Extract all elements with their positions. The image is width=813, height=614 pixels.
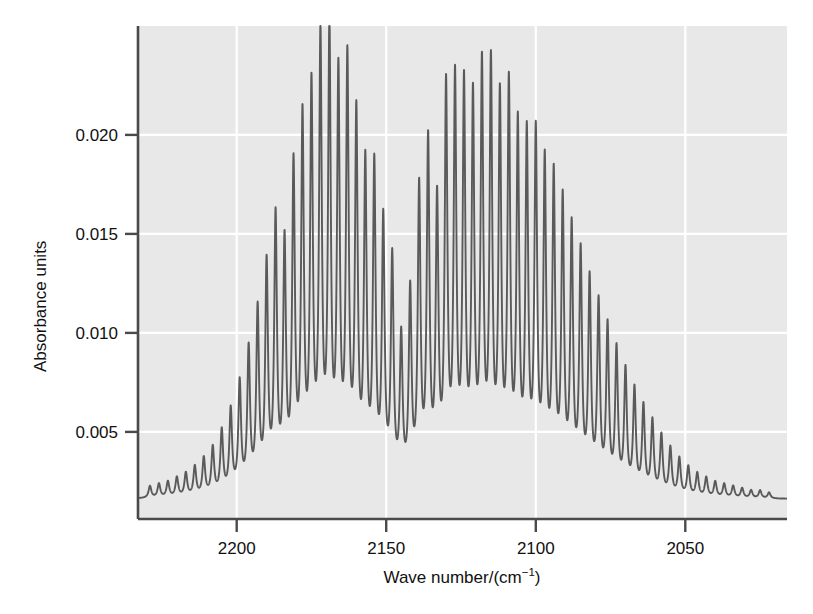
x-axis-title: Wave number/(cm−1): [383, 566, 540, 587]
x-axis-title-tail: ): [535, 568, 541, 587]
y-axis-tick-label: 0.010: [75, 324, 118, 343]
y-axis-ticks: [125, 135, 138, 432]
x-axis-title-superscript: −1: [522, 566, 535, 578]
x-axis-tick-label: 2150: [367, 539, 405, 558]
absorbance-spectrum-figure: 0.0050.0100.0150.020 2200215021002050 Ab…: [0, 0, 813, 614]
y-axis-title: Absorbance units: [31, 241, 50, 372]
x-axis-title-main: Wave number/(cm: [383, 568, 521, 587]
x-axis-tick-label: 2100: [517, 539, 555, 558]
x-axis-tick-label: 2050: [666, 539, 704, 558]
y-axis-tick-label: 0.020: [75, 126, 118, 145]
x-axis-tick-label: 2200: [218, 539, 256, 558]
x-axis-ticks: [237, 519, 686, 532]
x-axis-tick-labels: 2200215021002050: [218, 539, 704, 558]
y-axis-tick-labels: 0.0050.0100.0150.020: [75, 126, 118, 442]
y-axis-tick-label: 0.005: [75, 423, 118, 442]
y-axis-tick-label: 0.015: [75, 225, 118, 244]
